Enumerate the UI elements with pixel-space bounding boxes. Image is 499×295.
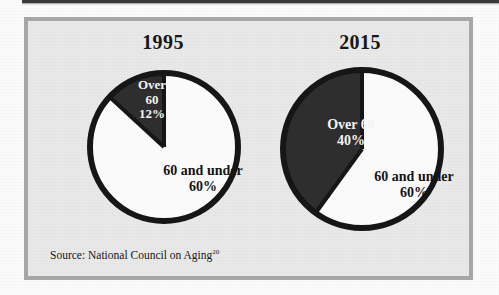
pie-label-1995-over-60-line2: 60 [124, 93, 180, 108]
pie-label-1995-60-and-under: 60 and under 60% [144, 163, 262, 194]
pie-label-1995-60-and-under-name: 60 and under [144, 163, 262, 179]
chart-title-2015: 2015 [300, 31, 420, 54]
pie-label-2015-60-and-under-percent: 60% [358, 185, 470, 201]
pie-label-1995-over-60: Over 60 12% [124, 78, 180, 122]
pie-label-2015-60-and-under: 60 and under 60% [358, 169, 470, 200]
top-horizontal-rule-shadow [22, 3, 499, 5]
source-note: Source: National Council on Aging20 [50, 249, 219, 261]
pie-label-2015-over-60-name: Over 60 [306, 117, 396, 133]
pie-label-1995-60-and-under-percent: 60% [144, 179, 262, 195]
pie-chart-2015 [276, 63, 448, 235]
chart-title-1995: 1995 [103, 31, 223, 54]
pie-label-1995-over-60-line1: Over [124, 78, 180, 93]
page-background: 1995 2015 Over 6 [0, 0, 499, 295]
figure-frame: 1995 2015 Over 6 [24, 17, 473, 280]
source-note-superscript: 20 [212, 248, 219, 256]
pie-label-2015-over-60: Over 60 40% [306, 117, 396, 148]
source-note-text: Source: National Council on Aging [50, 249, 212, 261]
pie-label-2015-60-and-under-name: 60 and under [358, 169, 470, 185]
pie-label-2015-over-60-percent: 40% [306, 133, 396, 149]
figure-inner-area: 1995 2015 Over 6 [28, 21, 469, 276]
pie-label-1995-over-60-percent: 12% [124, 107, 180, 122]
